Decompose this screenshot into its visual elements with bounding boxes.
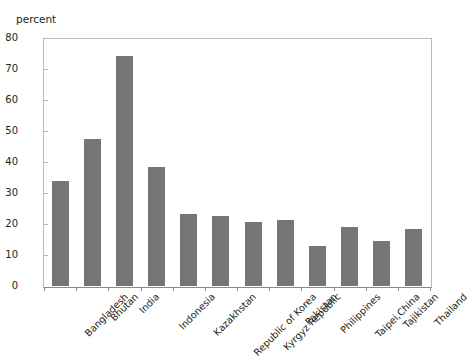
x-tick-mark (108, 287, 109, 291)
x-tick-mark (366, 287, 367, 291)
y-tick-label: 50 (5, 126, 18, 136)
chart-title (0, 0, 450, 3)
x-tick-mark (334, 287, 335, 291)
bar (341, 227, 358, 286)
bar (309, 246, 326, 286)
x-tick-mark (173, 287, 174, 291)
x-tick-mark (76, 287, 77, 291)
y-tick-label: 0 (12, 281, 18, 291)
x-tick-mark (237, 287, 238, 291)
y-tick-label: 60 (5, 95, 18, 105)
bar (52, 181, 69, 286)
y-tick-label: 70 (5, 64, 18, 74)
x-tick-mark (398, 287, 399, 291)
x-tick-mark (269, 287, 270, 291)
bar (277, 220, 294, 286)
x-tick-mark (141, 287, 142, 291)
y-tick-label: 40 (5, 157, 18, 167)
bars-layer (44, 38, 430, 286)
x-axis-labels: BangladeshBhutanIndiaIndonesiaKazakhstan… (0, 291, 450, 361)
y-tick-mark (44, 131, 48, 132)
y-tick-mark (44, 100, 48, 101)
x-tick-label: India (137, 291, 161, 315)
x-tick-label: Kazakhstan (211, 291, 258, 338)
x-tick-mark (44, 287, 45, 291)
y-tick-label: 10 (5, 250, 18, 260)
bar (245, 222, 262, 286)
x-tick-mark (301, 287, 302, 291)
y-tick-mark (44, 193, 48, 194)
x-tick-label: Indonesia (176, 291, 217, 332)
bar (148, 167, 165, 286)
y-axis: 01020304050607080 (0, 0, 43, 287)
bar (84, 139, 101, 286)
y-tick-mark (44, 255, 48, 256)
y-tick-label: 30 (5, 188, 18, 198)
y-tick-mark (44, 162, 48, 163)
bar (373, 241, 390, 286)
y-tick-label: 20 (5, 219, 18, 229)
bar (405, 229, 422, 286)
bar (180, 214, 197, 286)
bar (116, 56, 133, 286)
y-tick-mark (44, 69, 48, 70)
y-tick-mark (44, 224, 48, 225)
x-tick-mark (430, 287, 431, 291)
y-tick-label: 80 (5, 33, 18, 43)
bar (212, 216, 229, 286)
x-tick-mark (205, 287, 206, 291)
